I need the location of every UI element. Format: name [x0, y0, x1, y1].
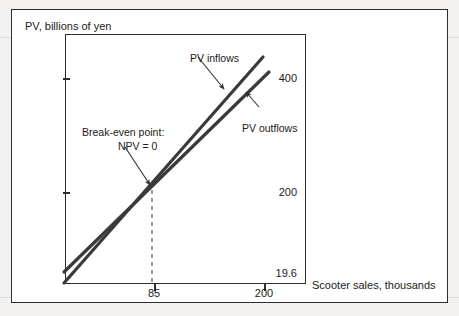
x-tick-label-85: 85 — [148, 287, 160, 299]
y-axis-title: PV, billions of yen — [25, 20, 111, 32]
x-axis-title: Scooter sales, thousands — [312, 279, 436, 291]
breakeven-label-line1: Break-even point: — [82, 125, 164, 139]
y-tick-label-19-6: 19.6 — [276, 267, 297, 279]
y-tick-200 — [63, 192, 70, 194]
y-tick-label-200: 200 — [279, 186, 297, 198]
x-tick-label-200: 200 — [255, 287, 273, 299]
plot-area: 400 200 19.6 85 200 — [65, 34, 306, 284]
breakeven-label-line2: NPV = 0 — [118, 139, 157, 153]
pv-outflows-label: PV outflows — [242, 121, 297, 135]
figure-frame: PV, billions of yen 400 200 19.6 85 200 … — [11, 9, 448, 303]
pv-inflows-label: PV inflows — [190, 51, 239, 65]
y-tick-400 — [63, 78, 70, 80]
y-tick-label-400: 400 — [279, 72, 297, 84]
